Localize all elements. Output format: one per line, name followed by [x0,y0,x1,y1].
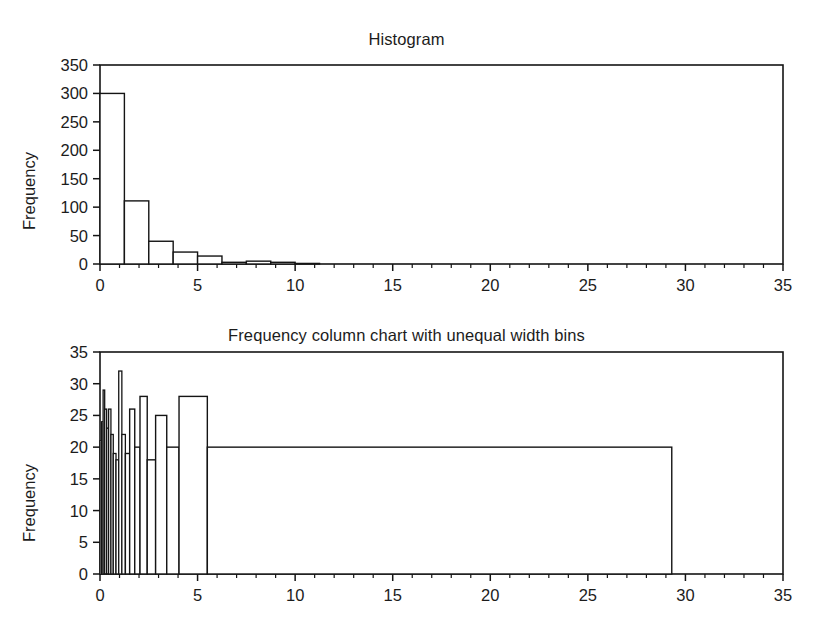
y-tick-label: 25 [70,406,88,424]
histogram-bar [295,263,319,264]
x-tick-label: 0 [95,276,104,294]
y-tick-label: 10 [70,502,88,520]
histogram-bar [135,447,140,574]
histogram-bar [124,201,148,264]
x-tick-label: 30 [676,586,694,604]
y-tick-label: 15 [70,470,88,488]
x-tick-label: 10 [286,276,304,294]
y-tick-label: 350 [60,56,88,74]
y-tick-label: 150 [60,170,88,188]
histogram-bar [100,93,124,264]
histogram-bar [147,460,155,574]
histogram-bar [156,415,167,574]
unequal-width-chart: Frequency column chart with unequal widt… [0,310,813,628]
histogram-bar [130,409,135,574]
histogram-chart: Histogram Frequency 05101520253035050100… [0,0,813,310]
plot-frame [100,65,783,264]
histogram-bar [140,396,147,574]
y-tick-label: 0 [79,565,88,583]
y-tick-label: 100 [60,198,88,216]
y-tick-label: 35 [70,343,88,361]
histogram-bar [246,261,270,264]
x-tick-label: 0 [95,586,104,604]
x-tick-label: 5 [193,586,202,604]
x-tick-label: 35 [774,276,792,294]
x-tick-label: 10 [286,586,304,604]
unequal-width-plot-area: 0510152025303505101520253035 [0,310,813,628]
x-tick-label: 25 [579,586,597,604]
histogram-bar [198,256,222,264]
x-tick-label: 35 [774,586,792,604]
histogram-plot-area: 05101520253035050100150200250300350 [0,0,813,310]
y-tick-label: 50 [70,227,88,245]
histogram-bar [173,252,197,264]
y-tick-label: 300 [60,84,88,102]
two-chart-figure: Histogram Frequency 05101520253035050100… [0,0,813,628]
x-tick-label: 15 [384,276,402,294]
histogram-bar [207,447,671,574]
x-tick-label: 30 [676,276,694,294]
histogram-bar [271,262,295,264]
histogram-bar [222,262,246,264]
x-tick-label: 20 [481,276,499,294]
histogram-bar [149,241,173,264]
x-tick-label: 25 [579,276,597,294]
y-tick-label: 200 [60,141,88,159]
y-tick-label: 0 [79,255,88,273]
y-tick-label: 250 [60,113,88,131]
x-tick-label: 5 [193,276,202,294]
histogram-bar [167,447,179,574]
y-tick-label: 30 [70,375,88,393]
x-tick-label: 20 [481,586,499,604]
histogram-bar [179,396,207,574]
x-tick-label: 15 [384,586,402,604]
y-tick-label: 5 [79,533,88,551]
y-tick-label: 20 [70,438,88,456]
